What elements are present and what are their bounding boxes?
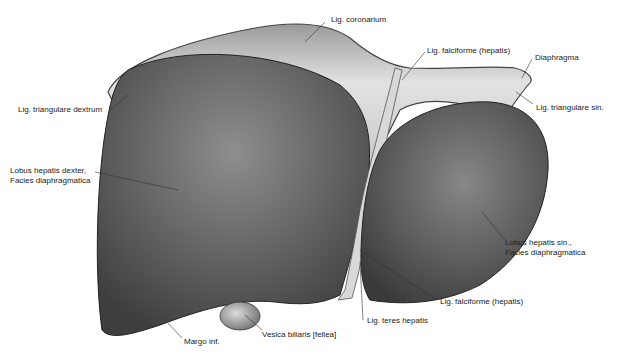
- label-lig-triangulare-dextrum: Lig. triangulare dextrum: [18, 105, 102, 115]
- label-lig-falciforme-bottom: Lig. falciforme (hepatis): [440, 297, 523, 307]
- label-lobus-sin-line2: Facies diaphragmatica: [505, 248, 585, 258]
- label-vesica-biliaris: Vesica biliaris [fellea]: [262, 330, 336, 340]
- right-lobe: [97, 54, 369, 335]
- liver-illustration: [0, 0, 617, 359]
- label-lobus-sin-line1: Lobus hepatis sin.,: [505, 238, 572, 248]
- label-lobus-dexter-line2: Facies diaphragmatica: [10, 176, 90, 186]
- label-lig-triangulare-sin: Lig. triangulare sin.: [536, 103, 604, 113]
- label-margo-inf: Margo inf.: [184, 337, 220, 347]
- label-lig-teres: Lig. teres hepatis: [367, 316, 428, 326]
- label-lobus-dexter-line1: Lobus hepatis dexter,: [10, 166, 86, 176]
- label-diaphragma: Diaphragma: [535, 53, 579, 63]
- label-lig-coronarium: Lig. coronarium: [331, 15, 386, 25]
- leader-margo: [165, 320, 182, 338]
- gallbladder: [220, 302, 260, 330]
- label-lig-falciforme-top: Lig. falciforme (hepatis): [427, 46, 510, 56]
